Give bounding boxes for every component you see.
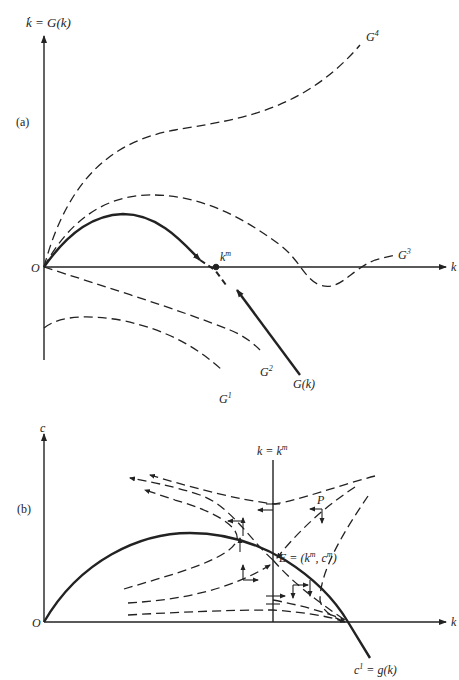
curve-g3 [44, 195, 395, 286]
point-p-label: P [317, 494, 324, 506]
panel-a-tag: (a) [16, 116, 29, 128]
equilibrium-e-label: E = (km, cm) [279, 551, 337, 564]
curve-g2-label: G2 [260, 365, 273, 378]
phase-diagram [0, 0, 459, 680]
panel-a-x-axis-label: k [451, 261, 456, 273]
curve-g4-label: G4 [366, 30, 379, 43]
curve-g1 [44, 317, 222, 370]
panel-b-x-axis-label: k [451, 616, 456, 628]
curve-g2 [44, 267, 260, 350]
panel-b-tag: (b) [17, 503, 31, 515]
curve-g1-label: G1 [219, 392, 232, 405]
panel-a-origin-label: O [31, 262, 40, 274]
steady-state-km-dot [213, 264, 219, 270]
curve-gk-label: G(k) [293, 378, 315, 390]
panel-b-origin-label: O [32, 617, 41, 629]
k-equals-km-label: k = km [257, 444, 288, 457]
curve-c1-gk-label: c1 = g(k) [354, 663, 397, 676]
panel-a-y-axis-label: k̇ = G(k) [26, 16, 71, 29]
panel-b-y-axis-label: c [40, 422, 45, 434]
steady-state-km-label: km [220, 250, 231, 263]
curve-gk-lower [237, 290, 300, 375]
panel-a [44, 36, 446, 375]
curve-g3-label: G3 [398, 248, 411, 261]
curve-g4 [44, 45, 360, 267]
panel-b [44, 434, 446, 658]
curve-gk [44, 214, 200, 267]
